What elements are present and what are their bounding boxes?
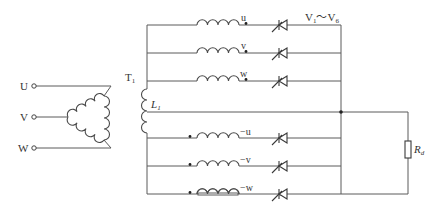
thyristor-icon [272, 133, 287, 145]
terminal-u [32, 84, 36, 88]
winding-label-neg-w: −w [240, 182, 254, 193]
thyristor-icon [272, 76, 287, 88]
thyristor-icon [272, 189, 287, 201]
reactor-label: L1 [150, 98, 161, 112]
winding-coil [197, 161, 239, 166]
delta-coil-upper [67, 93, 104, 117]
branch-neg-w [189, 189, 287, 201]
delta-coil-right [104, 96, 110, 140]
winding-coil [197, 76, 239, 81]
terminal-label-w: W [18, 142, 29, 154]
thyristor-icon [272, 48, 287, 60]
winding-coil [197, 48, 239, 53]
transformer-label: T1 [125, 71, 136, 85]
reactor-bus [142, 25, 409, 194]
labels: U V W T1 L1 u v w −u −v −w V1～V6 Rd [18, 11, 425, 193]
terminal-label-u: U [20, 80, 28, 92]
thyristor-range-label: V1～V6 [305, 11, 339, 25]
thyristor-icon [272, 20, 287, 32]
load-resistor [405, 141, 411, 158]
winding-coil [197, 20, 239, 25]
terminal-label-v: V [20, 111, 28, 123]
junction-dot [339, 110, 343, 114]
polarity-dot [189, 135, 192, 138]
wire-w-diag [104, 140, 111, 148]
winding-label-w: w [240, 68, 248, 79]
wire-u-diag [104, 86, 111, 96]
load-label: Rd [413, 143, 425, 157]
thyristor-icon [272, 161, 287, 173]
terminal-v [32, 115, 36, 119]
terminal-w [32, 146, 36, 150]
wiring [32, 20, 411, 201]
polarity-dot [189, 163, 192, 166]
delta-coil-lower [67, 117, 104, 142]
winding-label-u: u [241, 12, 246, 23]
reactor-coil [142, 89, 148, 133]
winding-label-neg-v: −v [240, 154, 251, 165]
primary-delta-winding [32, 84, 111, 150]
winding-label-neg-u: −u [240, 126, 251, 137]
winding-coil [197, 133, 239, 138]
circuit-diagram: U V W T1 L1 u v w −u −v −w V1～V6 Rd [0, 0, 441, 215]
winding-label-v: v [241, 40, 246, 51]
polarity-dot [189, 191, 192, 194]
